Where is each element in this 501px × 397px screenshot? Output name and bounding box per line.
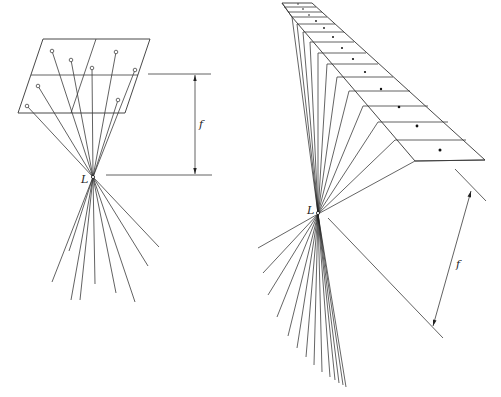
left-image-plane: [18, 39, 150, 113]
left-panel: L f: [18, 39, 212, 302]
diagram-canvas: L f: [0, 0, 501, 397]
right-center-label: L: [306, 204, 314, 217]
right-rays-below: [258, 214, 346, 387]
right-focal-label: f: [455, 258, 462, 271]
left-perspective-center: [91, 175, 94, 178]
right-panel: L f: [258, 3, 486, 387]
left-center-label: L: [80, 173, 88, 186]
left-rays-below: [52, 177, 159, 302]
left-focal-label: f: [198, 118, 205, 131]
right-strip: [282, 3, 485, 161]
right-focal-dimension: f: [328, 169, 486, 338]
right-perspective-center: [316, 211, 319, 214]
